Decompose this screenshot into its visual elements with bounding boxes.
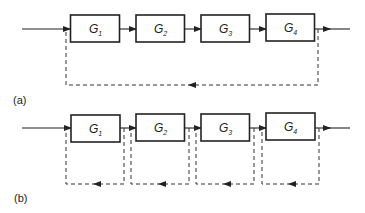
- feedback-arrow: [158, 181, 166, 187]
- block-g1: G1: [71, 15, 120, 42]
- panel-label-a: (a): [13, 94, 26, 106]
- block-g1: G1: [71, 115, 120, 142]
- feedback-arrow: [188, 82, 196, 88]
- panel-label-b: (b): [14, 192, 27, 204]
- feedback-arrow: [288, 181, 296, 187]
- feedback-arrow: [223, 181, 231, 187]
- panel-a: G1 G2 G3 G4 (a): [13, 14, 350, 106]
- panel-b: G1 G2 G3 G4 (b): [14, 113, 350, 204]
- block-g3: G3: [201, 114, 250, 141]
- block-g2: G2: [136, 15, 185, 42]
- block-g4: G4: [266, 14, 315, 41]
- block-g2: G2: [136, 114, 185, 141]
- block-g3: G3: [201, 15, 250, 42]
- block-g4: G4: [266, 113, 315, 140]
- block-diagram: G1 G2 G3 G4 (a) G1: [0, 0, 365, 213]
- feedback-arrow: [93, 181, 101, 187]
